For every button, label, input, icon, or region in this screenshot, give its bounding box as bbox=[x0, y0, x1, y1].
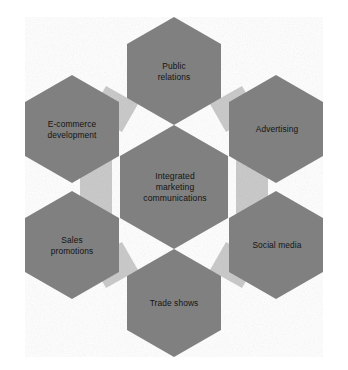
hexagon-diagram: Public relations Advertising Social medi… bbox=[0, 0, 348, 370]
hexagon-diagram-canvas bbox=[0, 0, 348, 370]
